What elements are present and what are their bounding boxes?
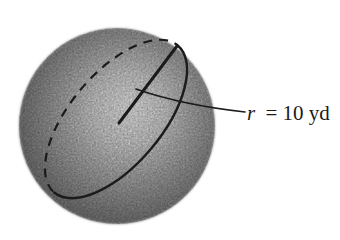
radius-value-unit: = 10 yd [265,101,330,125]
sphere-figure: r = 10 yd [0,0,340,240]
radius-label: r = 10 yd [247,101,330,125]
radius-symbol: r [247,101,256,125]
figure-canvas: r = 10 yd [0,0,340,240]
